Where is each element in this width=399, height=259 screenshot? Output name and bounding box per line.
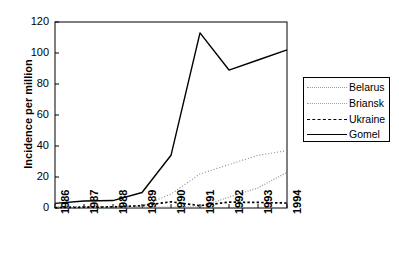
y-tick-label: 100 — [21, 47, 49, 58]
legend-swatch-ukraine — [307, 113, 347, 125]
x-tick-label: 1987 — [89, 190, 100, 214]
x-tick-label: 1986 — [60, 190, 71, 214]
y-tick-label: 60 — [21, 109, 49, 120]
plot-frame — [55, 22, 287, 208]
legend-item-ukraine[interactable]: Ukraine — [304, 111, 389, 127]
data-series-group — [55, 33, 287, 208]
legend-item-briansk[interactable]: Briansk — [304, 95, 389, 111]
series-line-gomel — [55, 33, 287, 204]
legend-label-briansk: Briansk — [349, 97, 384, 109]
x-tick-label: 1989 — [147, 190, 158, 214]
y-tick-label: 80 — [21, 78, 49, 89]
plot-border — [55, 22, 287, 208]
legend: Belarus Briansk Ukraine Gomel — [303, 77, 390, 142]
legend-label-gomel: Gomel — [349, 128, 380, 140]
legend-label-belarus: Belarus — [349, 81, 385, 93]
y-tick-label: 120 — [21, 16, 49, 27]
y-tick-label: 40 — [21, 140, 49, 151]
legend-swatch-briansk — [307, 97, 347, 109]
x-tick-label: 1991 — [205, 190, 216, 214]
legend-label-ukraine: Ukraine — [349, 113, 385, 125]
legend-swatch-gomel — [307, 128, 347, 140]
legend-item-belarus[interactable]: Belarus — [304, 79, 389, 95]
x-tick-label: 1992 — [234, 190, 245, 214]
x-tick-label: 1993 — [263, 190, 274, 214]
x-tick-label: 1988 — [118, 190, 129, 214]
axis-ticks — [55, 22, 287, 208]
y-tick-label: 20 — [21, 171, 49, 182]
legend-swatch-belarus — [307, 81, 347, 93]
chart-figure: Incidence per million 120100806040200 19… — [0, 0, 399, 259]
legend-item-gomel[interactable]: Gomel — [304, 126, 389, 142]
x-tick-label: 1990 — [176, 190, 187, 214]
y-tick-label: 0 — [21, 202, 49, 213]
x-tick-label: 1994 — [292, 190, 303, 214]
